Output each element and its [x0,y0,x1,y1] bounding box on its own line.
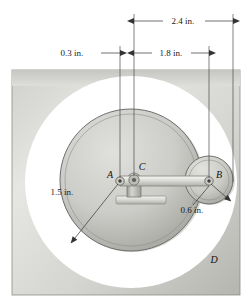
point-label-D: D [209,254,218,265]
dim-2-4-label: 2.4 in. [172,16,195,26]
pin-A [116,177,124,185]
dim-1-8-label: 1.8 in. [160,48,183,58]
dim-0-3-label: 0.3 in. [61,48,84,58]
dim-1-5-label: 1.5 in. [51,187,74,197]
pivot-pin-C [129,175,139,185]
point-label-B: B [216,169,222,180]
dim-0-6-label: 0.6 in. [181,205,204,215]
dimension-0-3: 0.3 in. [61,48,120,58]
pin-A-hole [118,179,121,182]
figure-canvas: 2.4 in. 0.3 in. 1.8 in. 1.5 in. 0.6 in. … [0,0,249,307]
pin-B-hole [207,179,210,182]
dimension-2-4: 2.4 in. [134,16,233,26]
pin-C-hole [132,178,136,182]
dimension-1-8: 1.8 in. [134,48,209,58]
point-label-C: C [139,161,146,172]
mechanism-diagram: 2.4 in. 0.3 in. 1.8 in. 1.5 in. 0.6 in. … [0,0,249,307]
pin-B [205,177,213,185]
point-label-A: A [106,169,114,180]
